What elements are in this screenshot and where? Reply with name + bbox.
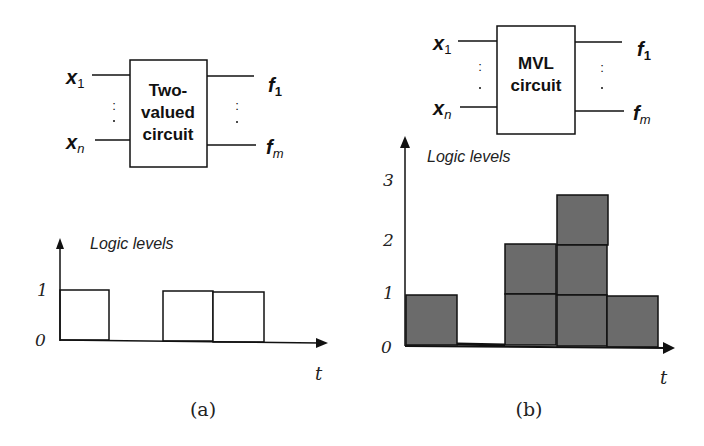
input-ellipsis: : — [478, 59, 482, 74]
signal-bar — [163, 291, 213, 341]
signal-block — [557, 195, 608, 245]
figure-canvas: Two- valued circuit x1 xn : f1 fm : Logi… — [0, 0, 704, 446]
two-valued-signal-plot: Logic levels 1 0 t (a) — [35, 235, 328, 420]
tick-label-3: 3 — [383, 170, 394, 190]
output-ellipsis: : — [235, 98, 239, 113]
signal-block — [505, 294, 556, 345]
panel-caption-a: (a) — [190, 398, 216, 420]
circuit-label-line2: valued — [141, 103, 195, 122]
tick-label-0: 0 — [35, 330, 46, 350]
input-label-last: xn — [65, 131, 84, 156]
output-ellipsis-dot — [601, 87, 603, 89]
x-axis-label: t — [660, 367, 668, 388]
signal-bar — [60, 290, 109, 340]
y-axis-arrow-icon — [400, 136, 410, 148]
output-label-first: f1 — [637, 38, 651, 63]
output-ellipsis: : — [600, 60, 604, 75]
tick-label-1: 1 — [383, 283, 394, 303]
output-ellipsis-dot — [236, 121, 238, 123]
tick-label-2: 2 — [382, 230, 394, 250]
y-axis-label: Logic levels — [427, 148, 511, 165]
output-label-last: fm — [266, 136, 284, 161]
circuit-label-line2: circuit — [510, 76, 561, 95]
output-label-first: f1 — [268, 74, 282, 99]
input-label-first: x1 — [432, 32, 451, 57]
signal-block — [557, 295, 607, 346]
input-ellipsis: : — [112, 98, 116, 113]
panel-caption-b: (b) — [516, 398, 543, 420]
signal-block — [406, 295, 457, 345]
circuit-label-line3: circuit — [142, 125, 193, 144]
y-axis-arrow-icon — [56, 238, 64, 249]
input-label-first: x1 — [65, 66, 84, 91]
input-label-last: xn — [432, 97, 451, 122]
x-axis-arrow-icon — [663, 342, 675, 354]
y-axis-label: Logic levels — [90, 235, 174, 252]
circuit-label-line1: MVL — [518, 54, 554, 73]
signal-block — [557, 245, 607, 295]
tick-label-0: 0 — [381, 337, 392, 357]
two-valued-circuit-diagram: Two- valued circuit x1 xn : f1 fm : — [65, 60, 284, 167]
input-ellipsis-dot — [479, 87, 481, 89]
tick-label-1: 1 — [37, 280, 48, 300]
signal-zero-segment — [457, 344, 505, 345]
signal-block — [607, 296, 658, 347]
output-label-last: fm — [633, 102, 651, 127]
circuit-label-line1: Two- — [149, 81, 187, 100]
x-axis-label: t — [315, 363, 323, 384]
mvl-signal-plot: Logic levels 3 2 1 0 t (b) — [381, 136, 675, 420]
input-ellipsis-dot — [113, 120, 115, 122]
signal-block — [505, 244, 556, 294]
signal-bar — [213, 292, 264, 342]
mvl-circuit-diagram: MVL circuit x1 xn : f1 fm : — [432, 26, 651, 134]
x-axis-arrow-icon — [316, 338, 328, 348]
